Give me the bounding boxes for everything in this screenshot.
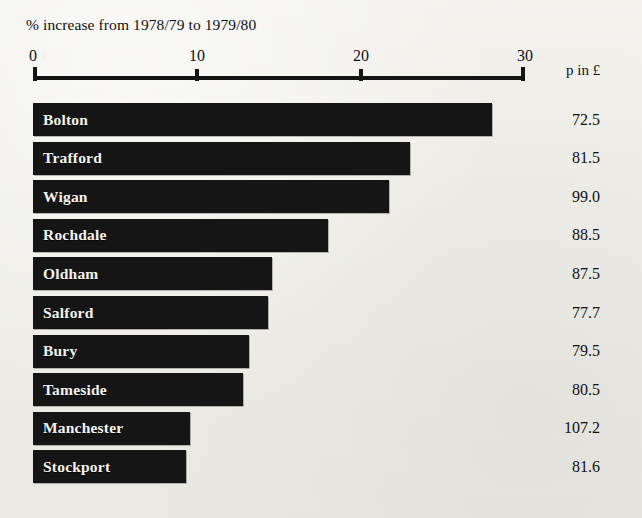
value-tameside: 80.5 (572, 381, 600, 399)
bar-row: Rochdale88.5 (0, 219, 642, 252)
bar-row: Manchester107.2 (0, 412, 642, 445)
bar-bolton (33, 103, 492, 136)
bar-label-bury: Bury (43, 342, 77, 360)
bar-label-wigan: Wigan (43, 188, 88, 206)
bar-row: Salford77.7 (0, 296, 642, 329)
value-salford: 77.7 (572, 304, 600, 322)
bar-label-bolton: Bolton (43, 111, 88, 129)
bar-series: Bolton72.5Trafford81.5Wigan99.0Rochdale8… (0, 0, 642, 518)
value-trafford: 81.5 (572, 149, 600, 167)
bar-label-manchester: Manchester (43, 419, 123, 437)
bar-row: Bury79.5 (0, 335, 642, 368)
value-wigan: 99.0 (572, 188, 600, 206)
bar-row: Stockport81.6 (0, 450, 642, 483)
value-oldham: 87.5 (572, 265, 600, 283)
value-stockport: 81.6 (572, 458, 600, 476)
value-rochdale: 88.5 (572, 226, 600, 244)
bar-row: Trafford81.5 (0, 142, 642, 175)
bar-label-stockport: Stockport (43, 458, 110, 476)
bar-label-rochdale: Rochdale (43, 226, 107, 244)
value-manchester: 107.2 (564, 419, 600, 437)
value-bolton: 72.5 (572, 111, 600, 129)
bar-row: Tameside80.5 (0, 373, 642, 406)
bar-row: Oldham87.5 (0, 257, 642, 290)
bar-label-trafford: Trafford (43, 149, 102, 167)
value-bury: 79.5 (572, 342, 600, 360)
bar-chart: % increase from 1978/79 to 1979/80 01020… (0, 0, 642, 518)
bar-row: Bolton72.5 (0, 103, 642, 136)
bar-label-oldham: Oldham (43, 265, 98, 283)
bar-row: Wigan99.0 (0, 180, 642, 213)
bar-label-salford: Salford (43, 304, 94, 322)
bar-label-tameside: Tameside (43, 381, 107, 399)
